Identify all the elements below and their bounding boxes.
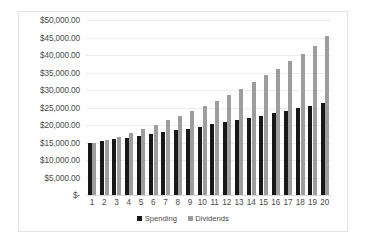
- bar-spending: [161, 132, 165, 195]
- x-axis-tick-label: 2: [102, 198, 107, 207]
- bar-dividends: [313, 46, 317, 195]
- bar-dividends: [92, 143, 96, 196]
- bars-layer: [86, 20, 331, 195]
- bar-spending: [100, 141, 104, 195]
- bar-dividends: [301, 54, 305, 195]
- bar-dividends: [105, 140, 109, 195]
- x-axis-tick-label: 20: [320, 198, 329, 207]
- y-axis-tick-label: $20,000.00: [40, 121, 80, 130]
- bar-group: [125, 20, 137, 195]
- bar-spending: [186, 129, 190, 196]
- bar-group: [247, 20, 259, 195]
- bar-spending: [125, 138, 129, 195]
- bar-dividends: [154, 125, 158, 195]
- bar-spending: [259, 116, 263, 195]
- legend-item: Spending: [137, 214, 177, 223]
- bar-spending: [88, 143, 92, 196]
- legend-swatch-icon: [188, 216, 193, 221]
- bar-dividends: [141, 129, 145, 195]
- bar-group: [210, 20, 222, 195]
- x-axis-tick-label: 12: [222, 198, 231, 207]
- bar-dividends: [252, 82, 256, 195]
- bar-spending: [235, 120, 239, 195]
- legend-label: Spending: [145, 214, 177, 223]
- bar-spending: [149, 134, 153, 195]
- y-axis-tick-label: $40,000.00: [40, 51, 80, 60]
- bar-dividends: [117, 137, 121, 195]
- x-axis-tick-label: 10: [198, 198, 207, 207]
- x-axis-tick-label: 16: [271, 198, 280, 207]
- bar-spending: [272, 113, 276, 195]
- bar-spending: [284, 111, 288, 195]
- bar-spending: [296, 108, 300, 195]
- bar-group: [149, 20, 161, 195]
- bar-dividends: [227, 95, 231, 195]
- bar-group: [100, 20, 112, 195]
- bar-group: [296, 20, 308, 195]
- x-axis-tick-label: 1: [90, 198, 95, 207]
- bar-group: [308, 20, 320, 195]
- bar-spending: [223, 122, 227, 195]
- bar-group: [223, 20, 235, 195]
- y-axis-tick-label: $15,000.00: [40, 138, 80, 147]
- y-axis-tick-label: $30,000.00: [40, 86, 80, 95]
- bar-group: [284, 20, 296, 195]
- bar-group: [161, 20, 173, 195]
- y-axis-tick-label: $-: [73, 191, 80, 200]
- bar-group: [235, 20, 247, 195]
- y-axis-tick-label: $25,000.00: [40, 103, 80, 112]
- bar-group: [174, 20, 186, 195]
- legend-item: Dividends: [188, 214, 229, 223]
- bar-dividends: [178, 116, 182, 195]
- bar-group: [112, 20, 124, 195]
- x-axis-tick-label: 11: [210, 198, 219, 207]
- y-axis: $-$5,000.00$10,000.00$15,000.00$20,000.0…: [19, 20, 84, 195]
- x-axis-tick-label: 18: [296, 198, 305, 207]
- x-axis-tick-label: 13: [235, 198, 244, 207]
- bar-group: [259, 20, 271, 195]
- bar-dividends: [264, 75, 268, 195]
- x-axis-tick-label: 8: [176, 198, 181, 207]
- x-axis-tick-label: 7: [163, 198, 168, 207]
- x-axis-tick-label: 4: [127, 198, 132, 207]
- bar-group: [198, 20, 210, 195]
- bar-spending: [210, 124, 214, 195]
- bar-dividends: [239, 89, 243, 195]
- x-axis-tick-label: 17: [284, 198, 293, 207]
- bar-dividends: [190, 111, 194, 195]
- bar-spending: [174, 130, 178, 195]
- plot-area: [86, 20, 331, 195]
- y-axis-tick-label: $35,000.00: [40, 68, 80, 77]
- bar-spending: [247, 118, 251, 195]
- x-axis: 1234567891011121314151617181920: [86, 198, 331, 212]
- bar-group: [88, 20, 100, 195]
- bar-group: [272, 20, 284, 195]
- bar-group: [137, 20, 149, 195]
- bar-spending: [308, 106, 312, 195]
- bar-spending: [321, 103, 325, 195]
- x-axis-tick-label: 14: [247, 198, 256, 207]
- bar-group: [186, 20, 198, 195]
- bar-spending: [112, 139, 116, 195]
- x-axis-tick-label: 6: [151, 198, 156, 207]
- bar-dividends: [325, 36, 329, 195]
- y-axis-tick-label: $5,000.00: [44, 173, 80, 182]
- bar-dividends: [166, 120, 170, 195]
- bar-dividends: [215, 101, 219, 195]
- gridline: [86, 195, 331, 196]
- y-axis-tick-label: $50,000.00: [40, 16, 80, 25]
- legend-swatch-icon: [137, 216, 142, 221]
- x-axis-tick-label: 3: [114, 198, 119, 207]
- x-axis-tick-label: 15: [259, 198, 268, 207]
- bar-group: [321, 20, 333, 195]
- bar-dividends: [276, 69, 280, 195]
- y-axis-tick-label: $45,000.00: [40, 33, 80, 42]
- bar-spending: [198, 127, 202, 196]
- y-axis-tick-label: $10,000.00: [40, 156, 80, 165]
- legend-label: Dividends: [195, 214, 228, 223]
- bar-dividends: [203, 106, 207, 195]
- x-axis-tick-label: 9: [188, 198, 193, 207]
- x-axis-tick-label: 19: [308, 198, 317, 207]
- chart-legend: SpendingDividends: [19, 214, 347, 223]
- chart-card: $-$5,000.00$10,000.00$15,000.00$20,000.0…: [18, 11, 348, 232]
